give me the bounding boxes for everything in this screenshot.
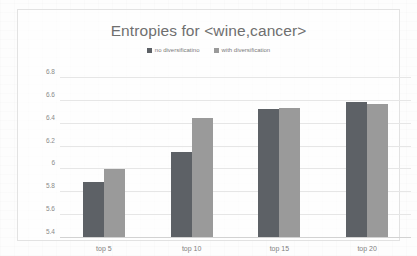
bar-top-15-series-1[interactable] xyxy=(279,108,300,238)
y-axis-tick-label: 6.8 xyxy=(46,68,55,75)
bar-groups: top 5top 10top 15top 20 xyxy=(60,78,411,238)
bar-top-10-series-0[interactable] xyxy=(171,152,192,238)
x-axis-label: top 20 xyxy=(323,245,411,252)
y-axis-tick-label: 6 xyxy=(51,159,55,166)
y-axis-tick-label: 6.4 xyxy=(46,113,55,120)
y-axis-tick-label: 6.2 xyxy=(46,136,55,143)
x-axis-line xyxy=(60,237,411,238)
bar-top-5-series-0[interactable] xyxy=(83,182,104,238)
bar-group: top 20 xyxy=(323,78,411,238)
y-axis-tick-label: 5.6 xyxy=(46,205,55,212)
x-axis-label: top 15 xyxy=(236,245,324,252)
legend-swatch-icon xyxy=(214,48,219,53)
bar-top-20-series-1[interactable] xyxy=(367,104,388,238)
x-axis-label: top 10 xyxy=(148,245,236,252)
bar-top-5-series-1[interactable] xyxy=(104,169,125,238)
legend-label-series-1: with diversification xyxy=(222,47,271,53)
legend-entry-series-1[interactable]: with diversification xyxy=(214,47,271,53)
y-axis-tick-label: 5.4 xyxy=(46,228,55,235)
legend-entry-series-0[interactable]: no diversificatino xyxy=(147,47,200,53)
bar-group: top 10 xyxy=(148,78,236,238)
x-axis-label: top 5 xyxy=(60,245,148,252)
bar-top-15-series-0[interactable] xyxy=(258,109,279,238)
chart-title: Entropies for <wine,cancer> xyxy=(18,22,399,40)
bar-top-20-series-0[interactable] xyxy=(346,102,367,238)
legend-swatch-icon xyxy=(147,48,152,53)
bar-top-10-series-1[interactable] xyxy=(192,118,213,238)
chart-frame: Entropies for <wine,cancer> no diversifi… xyxy=(17,9,400,241)
chart-legend: no diversificatino with diversification xyxy=(18,47,399,53)
y-axis-tick-label: 6.6 xyxy=(46,90,55,97)
y-axis-tick-label: 5.8 xyxy=(46,182,55,189)
legend-label-series-0: no diversificatino xyxy=(155,47,200,53)
plot-area: 5.45.65.866.26.46.66.8 top 5top 10top 15… xyxy=(60,78,411,238)
bar-group: top 5 xyxy=(60,78,148,238)
bar-group: top 15 xyxy=(236,78,324,238)
